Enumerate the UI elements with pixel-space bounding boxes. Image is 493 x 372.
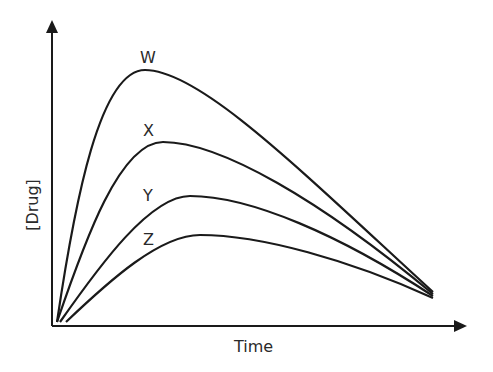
y-axis-arrow-icon — [46, 20, 58, 33]
curve-label-y: Y — [142, 186, 153, 205]
x-axis-label: Time — [233, 337, 273, 356]
curve-label-w: W — [140, 48, 156, 67]
y-axis-label: [Drug] — [23, 179, 42, 231]
curve-y — [60, 196, 433, 322]
curve-x — [57, 142, 433, 322]
chart: W X Y Z Time [Drug] — [0, 0, 493, 372]
curve-label-z: Z — [143, 230, 154, 249]
curve-z — [66, 235, 433, 322]
curve-w — [57, 70, 433, 322]
x-axis-arrow-icon — [454, 320, 467, 332]
curve-label-x: X — [143, 121, 154, 140]
